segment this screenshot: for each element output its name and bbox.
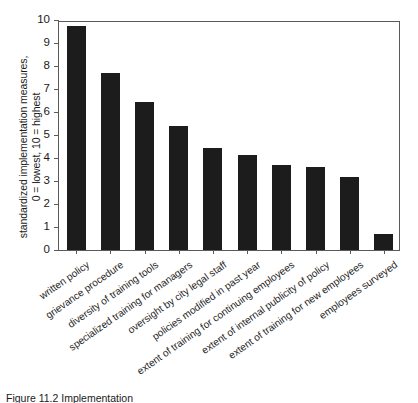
bar: [203, 148, 222, 250]
y-axis-tick-label: 8: [44, 60, 54, 72]
x-axis-tick-mark: [350, 250, 351, 254]
bar: [306, 167, 325, 250]
x-axis-label: grievance procedure: [44, 259, 126, 321]
y-axis-tick-label: 0: [44, 244, 54, 256]
x-axis-tick-mark: [145, 250, 146, 254]
bar: [272, 165, 291, 250]
x-axis-label: extent of internal publicity of policy: [199, 259, 331, 356]
y-axis-tick-label: 5: [44, 129, 54, 141]
bar: [135, 102, 154, 250]
bar-series: [59, 22, 399, 250]
bar: [67, 26, 86, 250]
x-axis-tick-mark: [281, 250, 282, 254]
bar: [101, 73, 120, 250]
bar-chart-figure: standardized implementation measures, 0 …: [0, 0, 418, 403]
x-axis-tick-mark: [384, 250, 385, 254]
x-axis-tick-mark: [76, 250, 77, 254]
x-axis-label: extent of training for new employees: [226, 259, 365, 361]
figure-caption: Figure 11.2 Implementation: [6, 392, 412, 403]
y-axis-tick-label: 9: [44, 37, 54, 49]
bar: [238, 155, 257, 250]
x-axis-tick-mark: [179, 250, 180, 254]
y-axis-tick-label: 2: [44, 198, 54, 210]
y-axis-tick-label: 7: [44, 83, 54, 95]
bar: [340, 177, 359, 250]
plot-area: 012345678910: [58, 21, 400, 251]
y-axis-tick-label: 1: [44, 221, 54, 233]
y-axis-tick-label: 10: [37, 14, 54, 26]
x-axis-label: employees surveyed: [317, 259, 399, 321]
y-axis-title-line2: 0 = lowest, 10 = highest: [30, 93, 43, 202]
bar: [374, 234, 393, 250]
x-axis-label: specialized training for managers: [67, 259, 194, 353]
y-axis-tick-mark: [54, 20, 59, 21]
y-axis-tick-label: 6: [44, 106, 54, 118]
x-axis-tick-mark: [316, 250, 317, 254]
x-axis-label: oversight by city legal staff: [125, 259, 228, 336]
y-axis-tick-label: 4: [44, 152, 54, 164]
y-axis-title-line1: standardized implementation measures,: [17, 56, 30, 238]
x-axis-tick-mark: [247, 250, 248, 254]
y-axis-tick-label: 3: [44, 175, 54, 187]
x-axis-tick-mark: [110, 250, 111, 254]
y-axis-title: standardized implementation measures, 0 …: [13, 22, 47, 272]
bar: [169, 126, 188, 250]
x-axis-label: policies modified in past year: [150, 259, 262, 342]
x-axis-label: diversity of training tools: [65, 259, 160, 330]
x-axis-label: extent of training for continuing employ…: [135, 259, 296, 377]
x-axis-tick-mark: [213, 250, 214, 254]
